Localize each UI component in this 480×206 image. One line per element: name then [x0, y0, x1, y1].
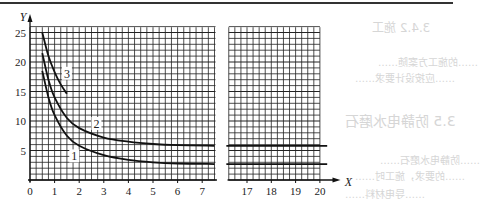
y-tick-label: 5	[21, 145, 27, 157]
x-tick-label: 3	[101, 185, 107, 197]
x-axis-label: X	[344, 175, 353, 189]
curve-label-1: 1	[71, 149, 77, 163]
x-tick-label: 18	[266, 185, 278, 197]
x-tick-label: 19	[290, 185, 302, 197]
curve-label-2: 2	[93, 117, 99, 131]
y-axis-arrow-icon	[28, 14, 33, 22]
x-tick-label: 1	[52, 185, 58, 197]
x-tick-label: 7	[199, 185, 205, 197]
x-tick-label: 5	[150, 185, 156, 197]
x-tick-label: 20	[314, 185, 326, 197]
x-tick-label: 4	[126, 185, 132, 197]
y-tick-label: 25	[15, 27, 27, 39]
x-tick-label: 17	[242, 185, 254, 197]
curve-label-3: 3	[64, 67, 70, 81]
x-tick-label: 6	[175, 185, 181, 197]
grid-right-panel	[229, 27, 320, 180]
y-axis-label: Y	[20, 10, 28, 24]
x-tick-label: 2	[76, 185, 82, 197]
x-axis-arrow-icon	[332, 178, 340, 183]
y-tick-label: 10	[15, 115, 27, 127]
y-tick-label: 15	[15, 86, 27, 98]
y-tick-label: 20	[15, 56, 27, 68]
x-tick-label: 0	[27, 185, 33, 197]
